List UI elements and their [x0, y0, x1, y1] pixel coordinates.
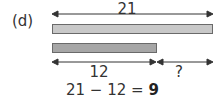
- unknown-part-label: ?: [171, 63, 187, 81]
- equation-answer: 9: [148, 81, 158, 99]
- total-arrow: [52, 11, 213, 17]
- known-part-bar: [52, 43, 157, 53]
- equation: 21 − 12 = 9: [66, 81, 159, 99]
- equation-expression: 21 − 12 =: [66, 81, 148, 99]
- known-part-label: 12: [86, 63, 112, 81]
- total-bar: [52, 24, 213, 34]
